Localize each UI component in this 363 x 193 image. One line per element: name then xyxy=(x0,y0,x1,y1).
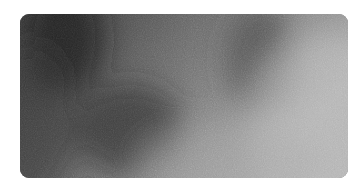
grainy-gradient-tile xyxy=(20,14,348,178)
grain-overlay-2 xyxy=(20,14,348,178)
image-canvas xyxy=(0,0,363,193)
texture-graphic xyxy=(20,14,348,178)
